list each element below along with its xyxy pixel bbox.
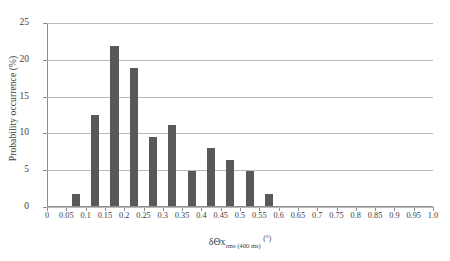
plot-area — [47, 23, 433, 207]
bar — [246, 171, 254, 206]
y-tick-label: 10 — [5, 127, 29, 137]
gridline-y-10 — [47, 133, 433, 134]
bar — [110, 46, 118, 206]
bar — [91, 115, 99, 206]
bar — [149, 137, 157, 206]
y-tick-label: 20 — [5, 54, 29, 64]
bar — [207, 148, 215, 206]
x-axis-title-subscript: rms (400 ms) — [226, 242, 261, 249]
bar — [265, 194, 273, 207]
y-tick-label: 15 — [5, 91, 29, 101]
gridline-y-25 — [47, 23, 433, 24]
x-axis-title-unit: (°) — [263, 234, 271, 243]
x-tick-mark — [433, 207, 434, 211]
x-axis-title: δΘxrms (400 ms) (°) — [47, 234, 433, 249]
bar — [130, 68, 138, 206]
x-axis-title-base: δΘx — [209, 236, 226, 247]
bar — [188, 171, 196, 206]
gridline-y-15 — [47, 97, 433, 98]
histogram-chart: Probability occurrence (%) 0510152025 00… — [0, 0, 450, 261]
gridline-y-0 — [47, 207, 433, 208]
y-tick-label: 25 — [5, 17, 29, 27]
bar — [72, 194, 80, 206]
gridline-y-5 — [47, 170, 433, 171]
y-tick-label: 5 — [5, 164, 29, 174]
y-axis-line — [47, 23, 48, 207]
y-axis-title: Probability occurrence (%) — [8, 5, 24, 212]
gridline-y-20 — [47, 60, 433, 61]
y-tick-label: 0 — [5, 201, 29, 211]
x-tick-label: 1.0 — [418, 211, 448, 220]
bar — [226, 160, 234, 206]
bar — [168, 125, 176, 206]
